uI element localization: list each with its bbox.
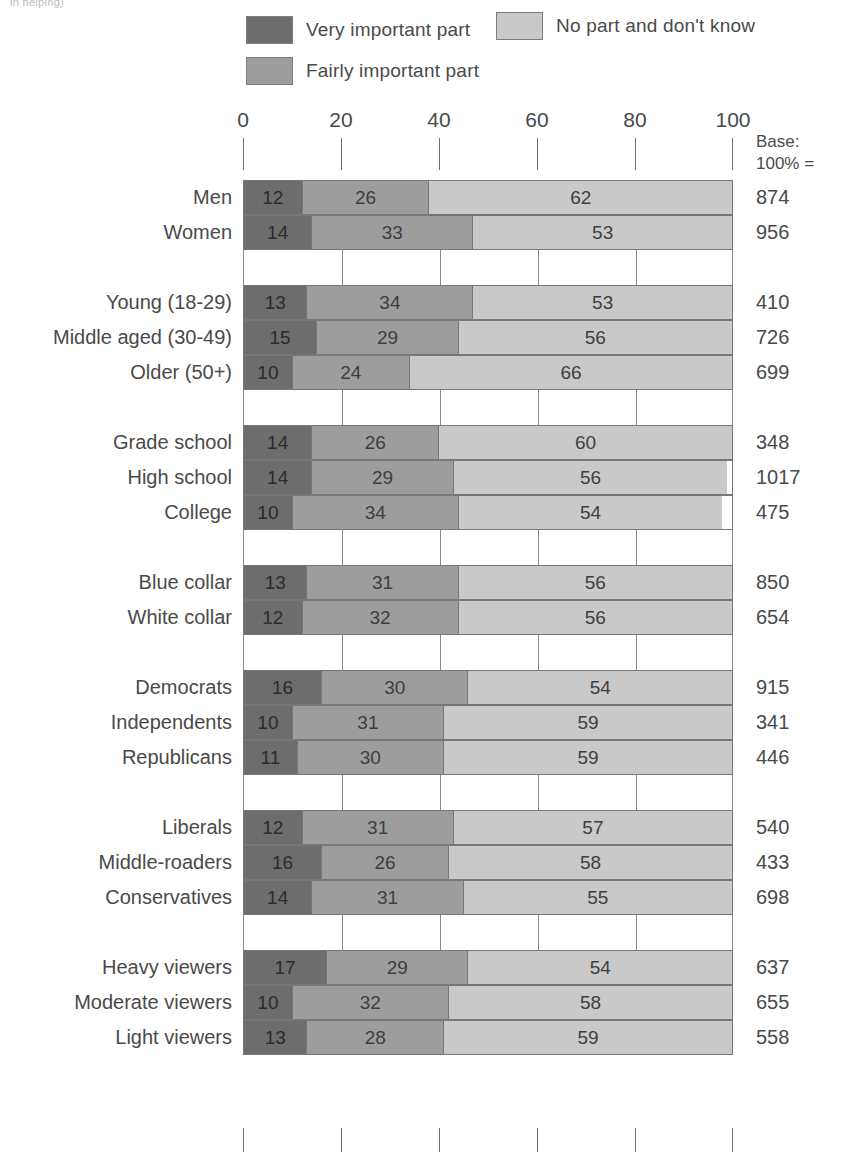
bar-segment-fairly-important-part: 29 bbox=[317, 321, 459, 354]
bar-segment-very-important-part: 14 bbox=[244, 426, 312, 459]
bar-segment-no-part-and-don-t-know: 56 bbox=[459, 566, 732, 599]
stacked-bar: 103454 bbox=[243, 495, 733, 530]
row-base-value: 558 bbox=[756, 1020, 789, 1055]
bar-segment-very-important-part: 10 bbox=[244, 706, 293, 739]
legend-item-no-part: No part and don't know bbox=[496, 12, 755, 40]
legend-swatch-no-part bbox=[496, 12, 543, 40]
bar-segment-very-important-part: 10 bbox=[244, 496, 293, 529]
row-base-value: 654 bbox=[756, 600, 789, 635]
bar-segment-very-important-part: 12 bbox=[244, 811, 303, 844]
x-axis-tick-mark bbox=[537, 138, 538, 170]
row-base-value: 956 bbox=[756, 215, 789, 250]
group-separator-row bbox=[243, 915, 733, 950]
x-axis-tick-mark bbox=[243, 138, 244, 170]
bar-segment-no-part-and-don-t-know: 55 bbox=[464, 881, 732, 914]
bar-segment-very-important-part: 16 bbox=[244, 671, 322, 704]
bar-segment-fairly-important-part: 33 bbox=[312, 216, 473, 249]
chart-row: Older (50+)102466699 bbox=[243, 355, 733, 390]
bar-segment-fairly-important-part: 31 bbox=[303, 811, 454, 844]
group-separator-row bbox=[243, 390, 733, 425]
row-base-value: 475 bbox=[756, 495, 789, 530]
bar-segment-no-part-and-don-t-know: 56 bbox=[459, 321, 732, 354]
row-category-label: Republicans bbox=[122, 740, 232, 775]
bar-segment-fairly-important-part: 26 bbox=[312, 426, 439, 459]
bar-segment-fairly-important-part: 31 bbox=[312, 881, 463, 914]
group-separator-row bbox=[243, 635, 733, 670]
chart-row: Middle-roaders162658433 bbox=[243, 845, 733, 880]
stacked-bar: 163054 bbox=[243, 670, 733, 705]
row-category-label: College bbox=[164, 495, 232, 530]
bar-segment-fairly-important-part: 32 bbox=[303, 601, 459, 634]
x-axis-tick-label: 60 bbox=[525, 108, 548, 132]
bar-segment-no-part-and-don-t-know: 66 bbox=[410, 356, 732, 389]
bar-segment-fairly-important-part: 32 bbox=[293, 986, 449, 1019]
bar-segment-fairly-important-part: 26 bbox=[303, 181, 430, 214]
legend-item-fairly-important: Fairly important part bbox=[246, 57, 479, 85]
row-category-label: Middle aged (30-49) bbox=[53, 320, 232, 355]
bar-segment-no-part-and-don-t-know: 56 bbox=[459, 601, 732, 634]
bar-segment-fairly-important-part: 28 bbox=[307, 1021, 444, 1054]
bar-segment-very-important-part: 10 bbox=[244, 986, 293, 1019]
bar-segment-no-part-and-don-t-know: 59 bbox=[444, 706, 732, 739]
row-category-label: Conservatives bbox=[105, 880, 232, 915]
x-axis-bottom bbox=[243, 1128, 733, 1154]
bar-segment-fairly-important-part: 31 bbox=[307, 566, 458, 599]
row-base-value: 540 bbox=[756, 810, 789, 845]
chart-row: Women143353956 bbox=[243, 215, 733, 250]
stacked-bar: 103258 bbox=[243, 985, 733, 1020]
x-axis-tick-mark bbox=[439, 138, 440, 170]
gridlines bbox=[243, 635, 733, 670]
bar-segment-no-part-and-don-t-know: 62 bbox=[429, 181, 732, 214]
row-base-value: 410 bbox=[756, 285, 789, 320]
stacked-bar: 142660 bbox=[243, 425, 733, 460]
header-text-fragment: in helping) bbox=[10, 0, 64, 8]
legend-item-very-important: Very important part bbox=[246, 16, 470, 44]
bar-segment-very-important-part: 10 bbox=[244, 356, 293, 389]
chart-row: Moderate viewers103258655 bbox=[243, 985, 733, 1020]
row-base-value: 637 bbox=[756, 950, 789, 985]
bar-segment-fairly-important-part: 30 bbox=[298, 741, 444, 774]
chart-row: High school1429561017 bbox=[243, 460, 733, 495]
gridlines bbox=[243, 530, 733, 565]
bar-segment-very-important-part: 15 bbox=[244, 321, 317, 354]
bar-segment-fairly-important-part: 31 bbox=[293, 706, 444, 739]
bar-segment-very-important-part: 12 bbox=[244, 181, 303, 214]
row-base-value: 341 bbox=[756, 705, 789, 740]
bar-segment-very-important-part: 14 bbox=[244, 881, 312, 914]
chart-row: Men122662874 bbox=[243, 180, 733, 215]
row-category-label: Democrats bbox=[135, 670, 232, 705]
chart-plot-area: Men122662874Women143353956Young (18-29)1… bbox=[243, 180, 733, 1055]
bar-segment-fairly-important-part: 29 bbox=[312, 461, 454, 494]
row-base-value: 348 bbox=[756, 425, 789, 460]
row-base-value: 915 bbox=[756, 670, 789, 705]
x-axis-tick-mark bbox=[341, 1128, 342, 1152]
row-category-label: Light viewers bbox=[115, 1020, 232, 1055]
bar-segment-no-part-and-don-t-know: 57 bbox=[454, 811, 732, 844]
legend-swatch-very-important bbox=[246, 16, 293, 44]
row-category-label: Men bbox=[193, 180, 232, 215]
base-header-line1: Base: bbox=[756, 131, 814, 153]
chart-row: White collar123256654 bbox=[243, 600, 733, 635]
stacked-bar: 162658 bbox=[243, 845, 733, 880]
x-axis-tick-mark bbox=[243, 1128, 244, 1152]
stacked-bar: 123256 bbox=[243, 600, 733, 635]
bar-segment-very-important-part: 11 bbox=[244, 741, 298, 774]
bar-segment-very-important-part: 13 bbox=[244, 286, 307, 319]
x-axis-tick-mark bbox=[732, 1128, 733, 1152]
bar-segment-no-part-and-don-t-know: 58 bbox=[449, 846, 732, 879]
x-axis-tick-mark bbox=[439, 1128, 440, 1152]
row-category-label: Grade school bbox=[113, 425, 232, 460]
x-axis-tick-mark bbox=[537, 1128, 538, 1152]
stacked-bar: 103159 bbox=[243, 705, 733, 740]
row-category-label: Liberals bbox=[162, 810, 232, 845]
bar-segment-fairly-important-part: 34 bbox=[293, 496, 459, 529]
row-base-value: 726 bbox=[756, 320, 789, 355]
x-axis-tick-mark bbox=[635, 1128, 636, 1152]
chart-row: Young (18-29)133453410 bbox=[243, 285, 733, 320]
stacked-bar: 123157 bbox=[243, 810, 733, 845]
bar-segment-very-important-part: 14 bbox=[244, 461, 312, 494]
x-axis-tick-label: 80 bbox=[623, 108, 646, 132]
x-axis-tick-label: 0 bbox=[237, 108, 249, 132]
x-axis-tick-mark bbox=[341, 138, 342, 170]
bar-segment-fairly-important-part: 34 bbox=[307, 286, 473, 319]
